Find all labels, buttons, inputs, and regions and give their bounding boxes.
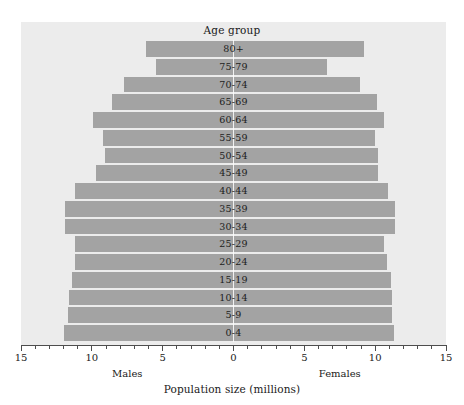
- bar-female: [234, 272, 391, 288]
- bar-male: [93, 112, 233, 128]
- x-axis-title: Population size (millions): [0, 383, 464, 395]
- bar-male: [75, 236, 234, 252]
- tick-minor: [318, 345, 319, 349]
- tick-minor: [261, 345, 262, 349]
- legend-label-males: Males: [112, 368, 142, 379]
- tick-minor: [176, 345, 177, 349]
- tick-minor: [247, 345, 248, 349]
- tick-minor: [431, 345, 432, 349]
- bar-female: [234, 183, 388, 199]
- bar-male: [64, 325, 234, 341]
- tick-minor: [63, 345, 64, 349]
- tick-minor: [276, 345, 277, 349]
- tick-minor: [35, 345, 36, 349]
- tick-minor: [148, 345, 149, 349]
- tick-minor: [417, 345, 418, 349]
- tick-minor: [219, 345, 220, 349]
- bar-female: [234, 130, 376, 146]
- tick-minor: [332, 345, 333, 349]
- bar-female: [234, 219, 396, 235]
- bar-female: [234, 112, 384, 128]
- bar-male: [103, 130, 233, 146]
- tick-label: 5: [159, 352, 165, 363]
- tick-minor: [106, 345, 107, 349]
- tick-major: [162, 345, 163, 351]
- tick-minor: [346, 345, 347, 349]
- tick-minor: [205, 345, 206, 349]
- bar-female: [234, 59, 328, 75]
- bar-male: [75, 183, 234, 199]
- tick-major: [21, 345, 22, 351]
- population-pyramid-chart: Age group 80+75-7970-7465-6960-6455-5950…: [0, 0, 464, 405]
- bar-female: [234, 148, 379, 164]
- bar-female: [234, 94, 377, 110]
- bar-male: [124, 77, 233, 93]
- bar-female: [234, 41, 364, 57]
- bar-male: [69, 290, 233, 306]
- tick-label: 0: [230, 352, 236, 363]
- bar-female: [234, 325, 394, 341]
- bar-female: [234, 165, 379, 181]
- bar-female: [234, 201, 396, 217]
- tick-label: 5: [301, 352, 307, 363]
- bar-male: [146, 41, 234, 57]
- tick-label: 15: [15, 352, 28, 363]
- bar-male: [156, 59, 234, 75]
- tick-major: [375, 345, 376, 351]
- tick-minor: [389, 345, 390, 349]
- tick-major: [233, 345, 234, 351]
- bar-male: [65, 201, 234, 217]
- bar-female: [234, 236, 384, 252]
- bar-female: [234, 307, 393, 323]
- chart-title: Age group: [0, 24, 464, 36]
- tick-major: [304, 345, 305, 351]
- bar-male: [105, 148, 234, 164]
- tick-minor: [134, 345, 135, 349]
- bar-male: [72, 272, 234, 288]
- bar-male: [112, 94, 234, 110]
- tick-minor: [77, 345, 78, 349]
- legend-label-females: Females: [319, 368, 361, 379]
- bar-male: [65, 219, 234, 235]
- bar-male: [96, 165, 233, 181]
- bar-female: [234, 77, 360, 93]
- tick-minor: [403, 345, 404, 349]
- center-axis-line: [233, 40, 234, 342]
- bar-female: [234, 254, 387, 270]
- bar-female: [234, 290, 393, 306]
- tick-minor: [361, 345, 362, 349]
- tick-major: [446, 345, 447, 351]
- tick-minor: [49, 345, 50, 349]
- tick-minor: [120, 345, 121, 349]
- tick-major: [91, 345, 92, 351]
- bar-male: [68, 307, 234, 323]
- tick-label: 15: [440, 352, 453, 363]
- tick-label: 10: [369, 352, 382, 363]
- tick-minor: [290, 345, 291, 349]
- bar-male: [75, 254, 234, 270]
- tick-minor: [191, 345, 192, 349]
- tick-label: 10: [85, 352, 98, 363]
